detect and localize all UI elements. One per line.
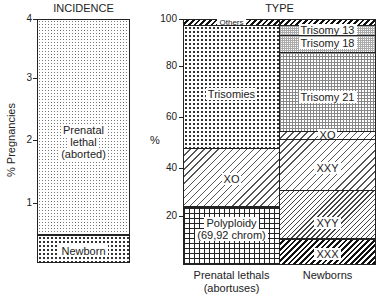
tick-100: 100	[157, 13, 177, 24]
prenatal-lethal-label: Prenatallethal(aborted)	[38, 124, 129, 160]
polyploidy-segment: Polyploidy(69,92 chrom)	[184, 206, 279, 264]
tick-2: 2	[12, 134, 32, 145]
newborn-segment: Newborn	[38, 234, 129, 262]
trisomy21-segment: Trisomy 21	[280, 52, 375, 131]
incidence-title: INCIDENCE	[37, 2, 130, 14]
xo-segment: XO	[184, 148, 279, 206]
xxx-segment: XXX	[280, 238, 375, 264]
incidence-bar: Prenatallethal(aborted) Newborn	[37, 19, 130, 263]
xo-segment-newborn: XO	[280, 131, 375, 139]
xxy-segment: XXY	[280, 139, 375, 190]
tick-20: 20	[157, 210, 177, 221]
tick-60: 60	[157, 111, 177, 122]
trisomy18-segment: Trisomy 18	[280, 35, 375, 52]
tick-1: 1	[12, 197, 32, 208]
xyy-segment: XYY	[280, 190, 375, 238]
tick-40: 40	[157, 162, 177, 173]
newborns-bar: Trisomy 13 Trisomy 18 Trisomy 21 XO XXY …	[279, 19, 376, 265]
tick-4: 4	[12, 13, 32, 24]
type-ylabel: %	[150, 134, 160, 146]
prenatal-lethals-bar: Others Trisomies XO Polyploidy(69,92 chr…	[183, 19, 280, 265]
type-title: TYPE	[183, 2, 376, 14]
newborns-label: Newborns	[279, 269, 376, 281]
trisomy13-segment: Trisomy 13	[280, 25, 375, 35]
tick-80: 80	[157, 60, 177, 71]
tick-3: 3	[12, 72, 32, 83]
trisomies-segment: Trisomies	[184, 25, 279, 148]
newborn-label: Newborn	[59, 245, 107, 257]
prenatal-lethals-label: Prenatal lethals(abortuses)	[183, 269, 280, 295]
